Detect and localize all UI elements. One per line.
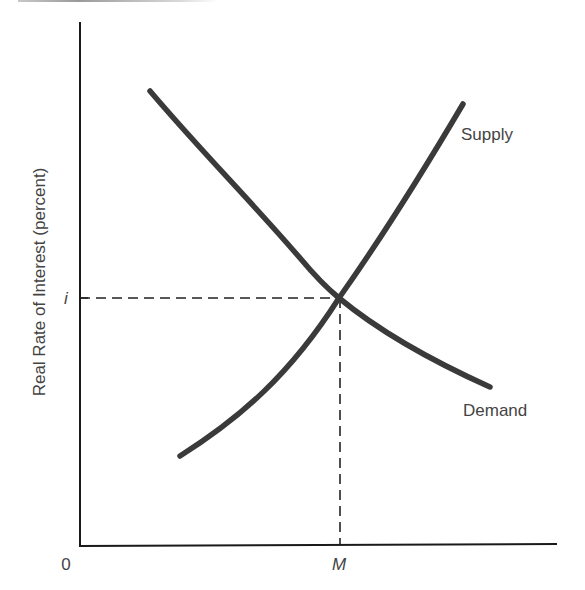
- x-axis: [79, 544, 557, 546]
- y-axis-label: Real Rate of Interest (percent): [30, 168, 49, 397]
- y-tick-label-i: i: [64, 289, 69, 308]
- x-tick-label-m: M: [332, 555, 347, 574]
- origin-label: 0: [61, 555, 70, 574]
- supply-label: Supply: [461, 125, 513, 144]
- demand-label: Demand: [463, 401, 527, 420]
- supply-demand-chart: Real Rate of Interest (percent) i 0 M Su…: [0, 0, 585, 590]
- demand-curve: [150, 91, 490, 387]
